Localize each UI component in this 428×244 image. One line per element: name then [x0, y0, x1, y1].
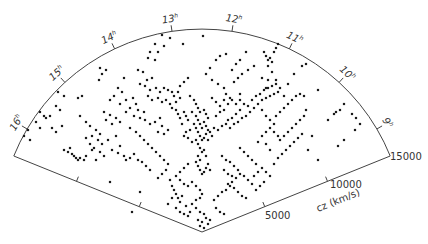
- galaxy-point: [83, 159, 85, 161]
- galaxy-point: [301, 133, 303, 135]
- galaxy-point: [207, 223, 209, 225]
- galaxy-point: [137, 109, 139, 111]
- galaxy-point: [197, 143, 199, 145]
- galaxy-point: [161, 34, 163, 36]
- galaxy-point: [261, 99, 263, 101]
- galaxy-point: [199, 211, 201, 213]
- galaxy-point: [201, 173, 203, 175]
- galaxy-point: [265, 97, 267, 99]
- galaxy-point: [265, 131, 267, 133]
- galaxy-point: [197, 119, 199, 121]
- galaxy-point: [179, 171, 181, 173]
- galaxy-point: [149, 169, 151, 171]
- galaxy-point: [195, 161, 197, 163]
- galaxy-point: [205, 155, 207, 157]
- cz-tick: [326, 177, 328, 182]
- galaxy-point: [239, 147, 241, 149]
- galaxy-point: [191, 111, 193, 113]
- galaxy-point: [311, 135, 313, 137]
- galaxy-point: [183, 183, 185, 185]
- galaxy-point: [231, 117, 233, 119]
- galaxy-point: [109, 99, 111, 101]
- galaxy-point: [175, 101, 177, 103]
- galaxy-point: [179, 179, 181, 181]
- galaxy-point: [271, 85, 273, 87]
- galaxy-point: [179, 211, 181, 213]
- galaxy-point: [119, 145, 121, 147]
- galaxy-point: [187, 163, 189, 165]
- galaxy-point: [147, 95, 149, 97]
- galaxy-point: [115, 117, 117, 119]
- galaxy-point: [307, 149, 309, 151]
- galaxy-point: [161, 125, 163, 127]
- galaxy-point: [71, 153, 73, 155]
- galaxy-point: [199, 147, 201, 149]
- galaxy-point: [231, 175, 233, 177]
- galaxy-point: [85, 137, 87, 139]
- galaxy-point: [207, 117, 209, 119]
- galaxy-point: [135, 131, 137, 133]
- galaxy-point: [163, 133, 165, 135]
- galaxy-point: [179, 97, 181, 99]
- galaxy-point: [73, 155, 75, 157]
- galaxy-point: [49, 115, 51, 117]
- galaxy-point: [215, 207, 217, 209]
- galaxy-point: [67, 151, 69, 153]
- galaxy-point: [201, 139, 203, 141]
- galaxy-point: [171, 107, 173, 109]
- galaxy-point: [45, 117, 47, 119]
- galaxy-point: [79, 115, 81, 117]
- galaxy-point: [209, 169, 211, 171]
- galaxy-point: [149, 51, 151, 53]
- galaxy-point: [219, 55, 221, 57]
- galaxy-point: [165, 169, 167, 171]
- galaxy-point: [99, 133, 101, 135]
- galaxy-point: [289, 145, 291, 147]
- galaxy-point: [257, 171, 259, 173]
- galaxy-point: [267, 87, 269, 89]
- galaxy-point: [105, 69, 107, 71]
- galaxy-point: [205, 125, 207, 127]
- ra-tick: [339, 78, 343, 82]
- galaxy-point: [269, 57, 271, 59]
- galaxy-point: [125, 111, 127, 113]
- ra-label-11h: 11h: [285, 28, 305, 46]
- galaxy-point: [197, 107, 199, 109]
- galaxy-point: [191, 141, 193, 143]
- galaxy-point: [233, 187, 235, 189]
- galaxy-point: [171, 197, 173, 199]
- galaxy-point: [195, 139, 197, 141]
- galaxy-point: [253, 65, 255, 67]
- galaxy-point: [107, 139, 109, 141]
- galaxy-point: [191, 203, 193, 205]
- cz-tick: [139, 202, 141, 207]
- galaxy-point: [287, 83, 289, 85]
- galaxy-point: [359, 123, 361, 125]
- galaxy-point: [146, 79, 148, 81]
- galaxy-point: [137, 69, 139, 71]
- galaxy-point: [51, 127, 53, 129]
- galaxy-point: [235, 103, 237, 105]
- galaxy-point: [59, 109, 61, 111]
- galaxy-point: [317, 89, 319, 91]
- galaxy-point: [203, 149, 205, 151]
- galaxy-point: [281, 153, 283, 155]
- galaxy-point: [91, 135, 93, 137]
- galaxy-point: [99, 151, 101, 153]
- galaxy-point: [343, 139, 345, 141]
- galaxy-point: [239, 93, 241, 95]
- galaxy-point: [157, 131, 159, 133]
- galaxy-point: [259, 185, 261, 187]
- galaxy-point: [269, 175, 271, 177]
- ra-tick: [61, 78, 65, 82]
- galaxy-point: [215, 115, 217, 117]
- galaxy-point: [265, 115, 267, 117]
- galaxy-point: [151, 99, 153, 101]
- galaxy-point: [161, 101, 163, 103]
- galaxy-point: [121, 91, 123, 93]
- galaxy-point: [202, 35, 204, 37]
- galaxy-point: [183, 81, 185, 83]
- galaxy-point: [161, 173, 163, 175]
- galaxy-point: [139, 117, 141, 119]
- galaxy-point: [85, 155, 87, 157]
